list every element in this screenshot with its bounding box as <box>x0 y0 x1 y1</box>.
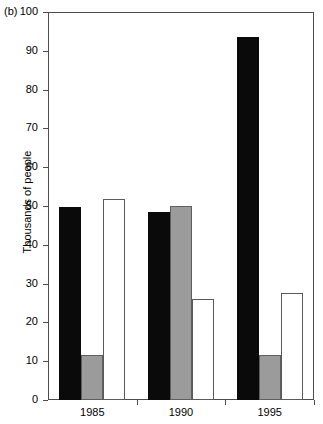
x-axis-tick-label: 1990 <box>146 406 216 419</box>
x-axis-tick-mark <box>314 400 315 405</box>
x-axis-tick-label: 1985 <box>57 406 127 419</box>
y-axis-tick-label: 10 <box>26 354 38 366</box>
y-axis-tick-label: 40 <box>26 238 38 250</box>
bar-1995-series-3 <box>281 293 303 400</box>
y-axis-tick: 70 <box>0 128 48 129</box>
panel-label: (b) <box>4 5 17 17</box>
y-axis-tick-label: 100 <box>20 5 38 17</box>
y-axis-tick-mark <box>43 167 48 168</box>
x-axis-tick-mark <box>137 400 138 405</box>
y-axis-tick: 10 <box>0 361 48 362</box>
y-axis-tick-label: 0 <box>32 393 38 405</box>
y-axis-tick-label: 80 <box>26 83 38 95</box>
y-axis-tick: 40 <box>0 245 48 246</box>
x-axis-tick-mark <box>225 400 226 405</box>
y-axis-tick-mark <box>43 245 48 246</box>
y-axis-tick-label: 50 <box>26 199 38 211</box>
y-axis-tick-mark <box>43 322 48 323</box>
y-axis-tick-mark <box>43 51 48 52</box>
y-axis-tick: 60 <box>0 167 48 168</box>
x-axis-tick-label: 1995 <box>235 406 305 419</box>
y-axis-tick: 90 <box>0 51 48 52</box>
y-axis-tick-label: 60 <box>26 160 38 172</box>
y-axis-tick: 30 <box>0 284 48 285</box>
y-axis-tick: 80 <box>0 90 48 91</box>
y-axis-tick-label: 20 <box>26 315 38 327</box>
y-axis-tick-mark <box>43 284 48 285</box>
y-axis-tick-label: 90 <box>26 44 38 56</box>
bar-1995-series-2 <box>259 355 281 400</box>
y-axis-tick-mark <box>43 361 48 362</box>
y-axis-tick-label: 70 <box>26 121 38 133</box>
bar-1995-series-1 <box>237 37 259 400</box>
bar-1985-series-3 <box>103 199 125 400</box>
bar-1990-series-1 <box>148 212 170 400</box>
y-axis-tick: 20 <box>0 322 48 323</box>
y-axis-tick-label: 30 <box>26 277 38 289</box>
y-axis-tick: 0 <box>0 400 48 401</box>
y-axis-tick: 50 <box>0 206 48 207</box>
y-axis-tick-mark <box>43 90 48 91</box>
bar-1990-series-2 <box>170 206 192 400</box>
bar-1990-series-3 <box>192 299 214 400</box>
y-axis-tick-mark <box>43 12 48 13</box>
y-axis-tick: 100 <box>0 12 48 13</box>
y-axis-tick-mark <box>43 206 48 207</box>
bar-1985-series-2 <box>81 355 103 400</box>
y-axis-tick-mark <box>43 128 48 129</box>
y-axis-tick-mark <box>43 400 48 401</box>
chart-figure: (b) Thousands of people 0102030405060708… <box>0 0 323 424</box>
bar-1985-series-1 <box>59 207 81 400</box>
